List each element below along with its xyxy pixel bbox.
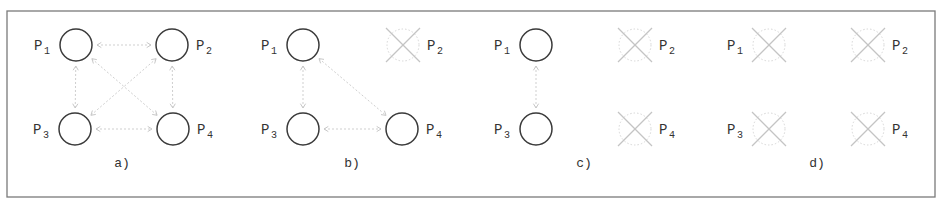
- figure-frame: [7, 11, 935, 197]
- arrowhead-icon: [73, 104, 78, 108]
- link-p1-p2: [97, 42, 151, 47]
- node-label-subscript: 2: [437, 46, 443, 57]
- link-p2-p4: [170, 66, 176, 108]
- arrowhead-icon: [300, 104, 305, 108]
- panel-caption: d): [809, 156, 825, 171]
- node-p1: P1: [34, 29, 92, 61]
- process-circle-icon: [60, 29, 92, 61]
- arrowhead-icon: [147, 42, 151, 47]
- arrowhead-icon: [324, 126, 328, 131]
- link-p1-p3: [300, 66, 305, 108]
- node-label: P: [727, 38, 735, 54]
- node-label: P: [659, 122, 667, 138]
- node-p4-failed: P4: [618, 112, 675, 146]
- node-label: P: [426, 122, 434, 138]
- process-circle-icon: [520, 29, 552, 61]
- arrowhead-icon: [533, 66, 538, 70]
- link-p2-p3: [91, 59, 156, 116]
- node-p2-failed: P2: [386, 28, 443, 62]
- process-circle-icon: [520, 113, 552, 145]
- arrowhead-icon: [96, 126, 100, 131]
- node-p4: P4: [386, 113, 442, 145]
- node-label-subscript: 1: [737, 46, 743, 57]
- link-line: [172, 66, 173, 108]
- node-label: P: [494, 38, 502, 54]
- panel-a: P1P2P3P4a): [33, 29, 213, 171]
- node-p1-failed: P1: [727, 28, 786, 62]
- arrowhead-icon: [170, 104, 175, 108]
- node-p3: P3: [494, 113, 552, 145]
- node-label-subscript: 2: [669, 46, 675, 57]
- node-label-subscript: 3: [737, 130, 743, 141]
- node-label: P: [892, 122, 900, 138]
- panel-d: P1P2P3P4d): [727, 28, 908, 171]
- node-label: P: [33, 122, 41, 138]
- process-circle-icon: [287, 113, 319, 145]
- node-label-subscript: 4: [669, 130, 675, 141]
- process-circle-icon: [156, 29, 188, 61]
- node-label-subscript: 3: [271, 130, 277, 141]
- node-p4: P4: [157, 113, 213, 145]
- node-label: P: [727, 122, 735, 138]
- link-p1-p4: [319, 59, 386, 116]
- node-label: P: [494, 122, 502, 138]
- node-p2: P2: [156, 29, 212, 61]
- node-p4-failed: P4: [851, 112, 908, 146]
- panel-b: P1P2P3P4b): [261, 28, 443, 171]
- arrowhead-icon: [533, 104, 538, 108]
- node-label-subscript: 1: [44, 46, 50, 57]
- arrowhead-icon: [97, 42, 101, 47]
- node-label-subscript: 4: [207, 130, 213, 141]
- node-p1: P1: [261, 29, 319, 61]
- node-p2-failed: P2: [618, 28, 675, 62]
- node-label: P: [197, 122, 205, 138]
- node-p3-failed: P3: [727, 112, 786, 146]
- node-label: P: [261, 122, 269, 138]
- panel-caption: a): [114, 156, 130, 171]
- link-p3-p4: [96, 126, 152, 131]
- link-line: [319, 59, 386, 116]
- node-label-subscript: 1: [504, 46, 510, 57]
- arrowhead-icon: [300, 66, 305, 70]
- node-label-subscript: 4: [902, 130, 908, 141]
- node-label: P: [261, 38, 269, 54]
- arrowhead-icon: [73, 66, 78, 70]
- node-p3: P3: [261, 113, 319, 145]
- link-p3-p4: [324, 126, 381, 131]
- node-label-subscript: 4: [436, 130, 442, 141]
- node-label-subscript: 2: [206, 46, 212, 57]
- node-label-subscript: 1: [271, 46, 277, 57]
- panel-c: P1P2P3P4c): [494, 28, 675, 171]
- link-p1-p4: [92, 59, 157, 116]
- panel-caption: c): [576, 156, 592, 171]
- node-label: P: [196, 38, 204, 54]
- process-circle-icon: [157, 113, 189, 145]
- link-line: [92, 59, 157, 116]
- link-line: [91, 59, 156, 116]
- link-line: [75, 66, 76, 108]
- link-p1-p3: [533, 66, 538, 108]
- node-label: P: [659, 38, 667, 54]
- node-label-subscript: 2: [902, 46, 908, 57]
- node-p2-failed: P2: [851, 28, 908, 62]
- node-label: P: [892, 38, 900, 54]
- node-p1: P1: [494, 29, 552, 61]
- arrowhead-icon: [170, 66, 175, 70]
- process-circle-icon: [287, 29, 319, 61]
- process-circle-icon: [59, 113, 91, 145]
- node-label: P: [34, 38, 42, 54]
- process-failure-diagram: P1P2P3P4a)P1P2P3P4b)P1P2P3P4c)P1P2P3P4d): [0, 0, 943, 207]
- panel-caption: b): [344, 156, 360, 171]
- node-label-subscript: 3: [43, 130, 49, 141]
- node-p3: P3: [33, 113, 91, 145]
- process-circle-icon: [386, 113, 418, 145]
- node-label-subscript: 3: [504, 130, 510, 141]
- node-label: P: [427, 38, 435, 54]
- link-p1-p3: [73, 66, 79, 108]
